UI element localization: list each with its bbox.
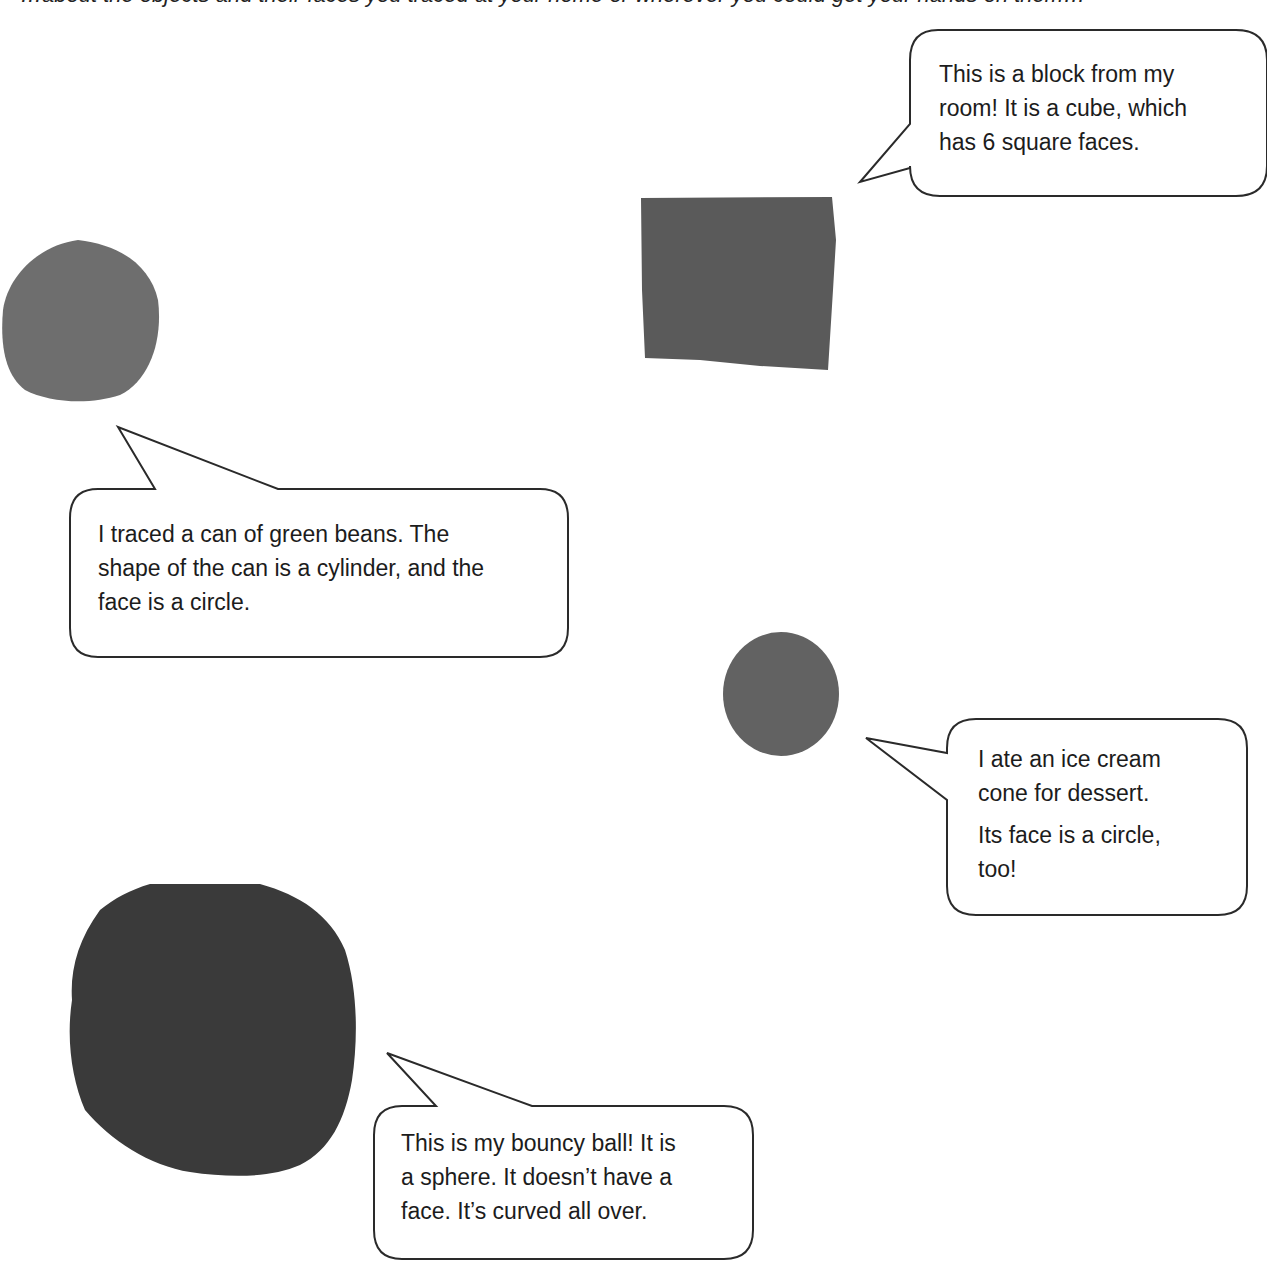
worksheet-canvas	[0, 0, 1267, 1288]
cone-bubble-text: I ate an ice cream cone for dessert. Its…	[978, 742, 1161, 886]
bubble-line: face is a circle.	[98, 585, 484, 619]
bubble-line: cone for dessert.	[978, 776, 1161, 810]
bubble-line: a sphere. It doesn’t have a	[401, 1160, 676, 1194]
cone-tracing	[723, 632, 839, 756]
bubble-line: face. It’s curved all over.	[401, 1194, 676, 1228]
cube-bubble-text: This is a block from my room! It is a cu…	[939, 57, 1187, 159]
bubble-line: shape of the can is a cylinder, and the	[98, 551, 484, 585]
can-tracing	[2, 240, 159, 401]
bubble-line: has 6 square faces.	[939, 125, 1187, 159]
cube-tracing	[641, 197, 836, 370]
ball-tracing	[70, 884, 356, 1176]
bubble-line: Its face is a circle,	[978, 818, 1161, 852]
cutoff-instructions-text: …about the objects and their faces you t…	[20, 0, 1085, 8]
ball-bubble-text: This is my bouncy ball! It is a sphere. …	[401, 1126, 676, 1228]
can-bubble-text: I traced a can of green beans. The shape…	[98, 517, 484, 619]
bubble-line: too!	[978, 852, 1161, 886]
bubble-line: I ate an ice cream	[978, 742, 1161, 776]
bubble-line: This is a block from my	[939, 57, 1187, 91]
bubble-line: I traced a can of green beans. The	[98, 517, 484, 551]
bubble-line: This is my bouncy ball! It is	[401, 1126, 676, 1160]
bubble-line: room! It is a cube, which	[939, 91, 1187, 125]
